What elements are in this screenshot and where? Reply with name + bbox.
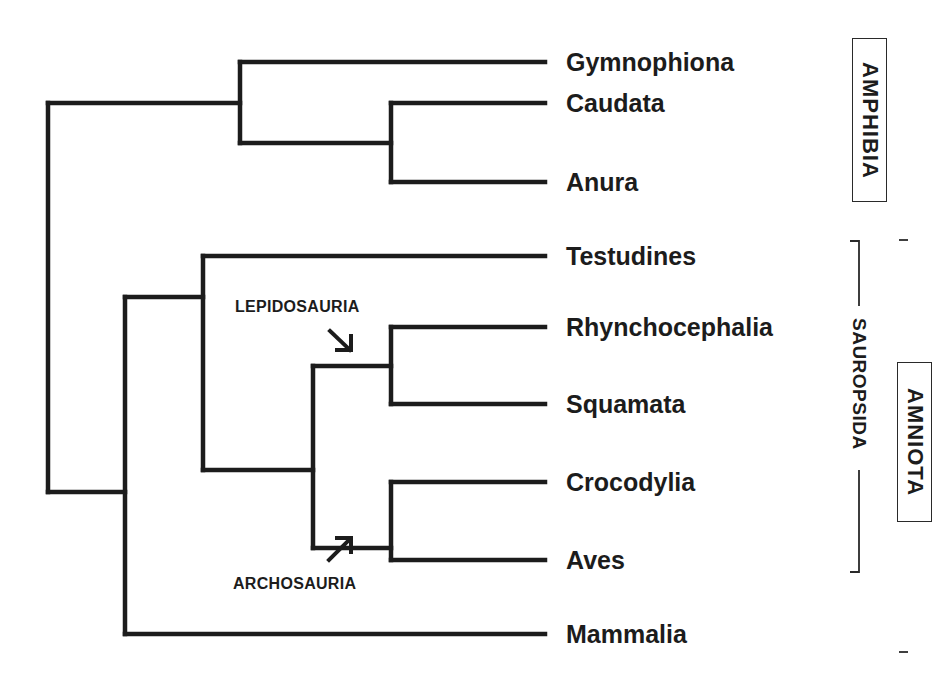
- taxon-testudines: Testudines: [566, 242, 696, 270]
- taxon-aves: Aves: [566, 546, 625, 574]
- group-label-amniota: AMNIOTA: [902, 388, 928, 496]
- taxon-anura: Anura: [566, 168, 638, 196]
- clade-label-archosauria: ARCHOSAURIA: [233, 575, 356, 593]
- taxon-rhynchocephalia: Rhynchocephalia: [566, 313, 773, 341]
- taxon-caudata: Caudata: [566, 89, 665, 117]
- clade-label-lepidosauria: LEPIDOSAURIA: [235, 298, 360, 316]
- arrow-down-right-icon: [330, 331, 351, 350]
- group-label-sauropsida: SAUROPSIDA: [848, 318, 870, 450]
- taxon-mammalia: Mammalia: [566, 620, 687, 648]
- group-box-amniota: AMNIOTA: [897, 362, 932, 522]
- taxon-squamata: Squamata: [566, 390, 685, 418]
- group-label-amphibia: AMPHIBIA: [857, 62, 883, 179]
- taxon-crocodylia: Crocodylia: [566, 468, 695, 496]
- taxon-gymnophiona: Gymnophiona: [566, 48, 734, 76]
- group-box-amphibia: AMPHIBIA: [852, 38, 887, 202]
